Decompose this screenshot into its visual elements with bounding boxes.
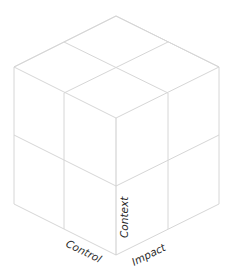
left-face-horizontal-divider (14, 135, 116, 186)
axis-label-impact: Impact (130, 240, 169, 267)
axis-label-context: Context (118, 196, 130, 238)
left-face (14, 93, 116, 229)
top-face (14, 16, 219, 118)
axis-label-control: Control (64, 237, 104, 265)
right-face (116, 93, 219, 229)
cube-diagram: Control Impact Context (0, 0, 230, 279)
